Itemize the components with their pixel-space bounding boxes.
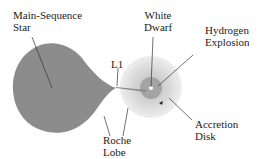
- label-l1: L1: [111, 58, 123, 70]
- leader-roche-lobe-2: [123, 108, 128, 136]
- leader-l1: [117, 68, 118, 86]
- label-hydrogen-explosion: Hydrogen Explosion: [205, 24, 250, 48]
- main-sequence-star: [13, 43, 116, 132]
- label-roche-lobe: Roche Lobe: [103, 134, 131, 158]
- label-white-dwarf: White Dwarf: [144, 9, 172, 33]
- leader-roche-lobe-1: [104, 116, 110, 136]
- label-main-sequence-star: Main-Sequence Star: [13, 9, 82, 33]
- label-accretion-disk: Accretion Disk: [195, 118, 238, 142]
